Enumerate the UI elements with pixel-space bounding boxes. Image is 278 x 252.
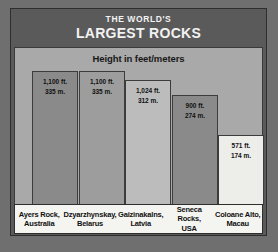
bar-1: 1,100 ft.335 m. <box>32 71 78 205</box>
category-label-country: Latvia <box>130 219 150 229</box>
category-label-4: Seneca Rocks,USA <box>165 205 214 233</box>
infographic-root: THE WORLD'S LARGEST ROCKS Height in feet… <box>0 0 278 252</box>
category-label-country: USA <box>182 224 197 234</box>
bar-value-feet: 1,100 ft. <box>90 77 114 87</box>
bar-value-meters: 174 m. <box>231 151 251 161</box>
category-label-name: Gaizinakalns, <box>118 210 163 220</box>
bar-3: 1,024 ft.312 m. <box>125 80 171 205</box>
category-label-name: Coloane Alto, <box>215 210 260 220</box>
bar-4: 900 ft.274 m. <box>172 95 218 205</box>
bar-value-feet: 571 ft. <box>232 141 251 151</box>
category-label-country: Macau <box>227 219 249 229</box>
page-title: THE WORLD'S LARGEST ROCKS <box>11 9 266 46</box>
bar-2: 1,100 ft.335 m. <box>79 71 125 205</box>
category-label-name: Ayers Rock, <box>19 210 60 220</box>
category-label-country: Australia <box>24 219 54 229</box>
category-label-5: Coloane Alto,Macau <box>213 205 262 233</box>
category-label-country: Belarus <box>77 219 103 229</box>
bar-value-feet: 1,024 ft. <box>136 86 160 96</box>
bar-value-meters: 312 m. <box>138 96 158 106</box>
bar-value-feet: 900 ft. <box>186 101 205 111</box>
category-labels-strip: Ayers Rock,AustraliaDzyarzhynskay,Belaru… <box>14 204 263 234</box>
bar-value-meters: 274 m. <box>185 111 205 121</box>
bar-value-feet: 1,100 ft. <box>43 77 67 87</box>
title-line-2: LARGEST ROCKS <box>76 25 201 41</box>
chart-panel: Height in feet/meters 1,100 ft.335 m.1,1… <box>14 47 263 204</box>
bar-value-meters: 335 m. <box>92 87 112 97</box>
bars-area: 1,100 ft.335 m.1,100 ft.335 m.1,024 ft.3… <box>15 48 264 205</box>
category-label-1: Ayers Rock,Australia <box>15 205 64 233</box>
title-line-1: THE WORLD'S <box>106 14 172 25</box>
category-label-3: Gaizinakalns,Latvia <box>116 205 165 233</box>
bar-5: 571 ft.174 m. <box>218 135 264 205</box>
bar-value-meters: 335 m. <box>45 87 65 97</box>
category-label-name: Dzyarzhynskay, <box>64 210 117 220</box>
category-label-2: Dzyarzhynskay,Belarus <box>64 205 117 233</box>
category-label-name: Seneca Rocks, <box>165 205 214 224</box>
